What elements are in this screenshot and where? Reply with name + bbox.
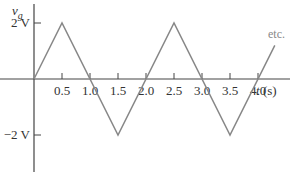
x-tick-label: 2.5 [166,83,182,98]
x-tick-label: 1.5 [110,83,126,98]
x-tick-label: 3.5 [222,83,238,98]
y-tick-label: −2 V [4,127,31,142]
etc-annotation: etc. [268,27,285,41]
chart: 0.51.01.52.02.53.03.54.02 V−2 V vg etc. … [0,0,302,175]
x-tick-label: 0.5 [54,83,70,98]
x-axis-label: t (s) [256,83,277,98]
